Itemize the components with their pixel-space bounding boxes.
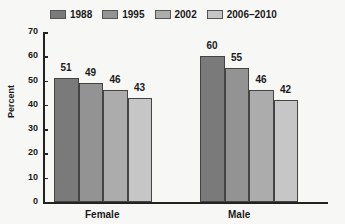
y-tick <box>43 56 48 58</box>
y-tick-label: 0 <box>18 196 38 206</box>
x-category-label: Male <box>228 209 250 220</box>
bar-female-2002 <box>103 90 128 202</box>
bar-value-label: 42 <box>274 84 298 95</box>
y-tick <box>43 129 48 131</box>
x-axis <box>43 202 328 204</box>
bar-female-1995 <box>79 83 104 202</box>
bar-value-label: 51 <box>54 62 78 73</box>
bar-value-label: 49 <box>79 67 103 78</box>
y-tick <box>43 202 48 204</box>
bar-value-label: 46 <box>249 74 273 85</box>
y-tick <box>43 32 48 34</box>
bar-value-label: 46 <box>103 74 127 85</box>
y-tick-label: 20 <box>18 147 38 157</box>
y-tick <box>43 153 48 155</box>
y-tick <box>43 105 48 107</box>
chart-plot-area: Percent 01020304050607051494643Female605… <box>0 0 345 224</box>
bar-male-2006–2010 <box>274 100 299 202</box>
bar-value-label: 60 <box>200 40 224 51</box>
y-tick-label: 70 <box>18 26 38 36</box>
bar-male-1988 <box>200 56 225 202</box>
y-tick-label: 60 <box>18 50 38 60</box>
bar-value-label: 43 <box>128 82 152 93</box>
bar-male-2002 <box>249 90 274 202</box>
bar-value-label: 55 <box>225 52 249 63</box>
x-category-label: Female <box>85 209 119 220</box>
y-tick-label: 10 <box>18 172 38 182</box>
y-tick <box>43 178 48 180</box>
bar-female-2006–2010 <box>128 98 153 202</box>
y-tick-label: 50 <box>18 75 38 85</box>
bar-male-1995 <box>225 68 250 202</box>
y-tick <box>43 81 48 83</box>
y-axis-label: Percent <box>6 85 16 118</box>
y-tick-label: 30 <box>18 123 38 133</box>
bar-female-1988 <box>54 78 79 202</box>
y-tick-label: 40 <box>18 99 38 109</box>
